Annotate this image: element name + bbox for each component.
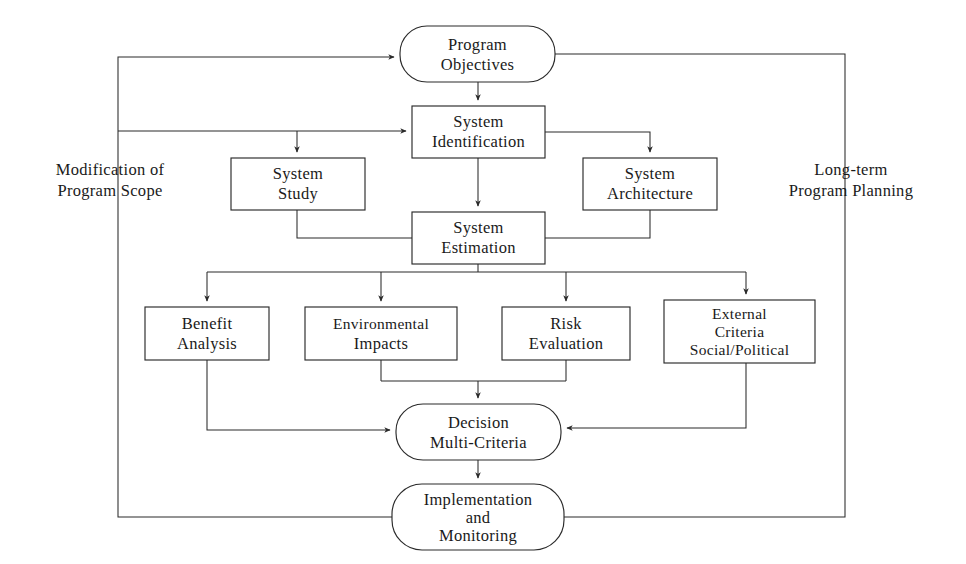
node-system-architecture[interactable]: System Architecture (583, 158, 717, 210)
node-benefit-analysis[interactable]: Benefit Analysis (145, 307, 269, 360)
node-system-identification-line2: Identification (432, 132, 525, 151)
node-system-estimation-line1: System (453, 218, 503, 237)
node-benefit-analysis-line1: Benefit (182, 314, 233, 333)
node-environmental-impacts-line2: Impacts (354, 334, 408, 353)
node-system-architecture-line2: Architecture (607, 184, 693, 203)
edge-long-term-feedback-loop (555, 54, 845, 517)
node-decision-line1: Decision (448, 413, 509, 432)
edge-external-to-decision (567, 363, 746, 428)
annotation-longterm-line1: Long-term (814, 160, 887, 179)
node-external-criteria-line2: Criteria (715, 323, 765, 340)
node-implementation-monitoring[interactable]: Implementation and Monitoring (392, 484, 564, 550)
node-system-architecture-line1: System (625, 164, 675, 183)
node-external-criteria-line1: External (712, 305, 767, 322)
node-external-criteria[interactable]: External Criteria Social/Political (664, 300, 815, 363)
node-system-study-line1: System (273, 164, 323, 183)
edge-study-to-estimation (297, 210, 412, 238)
node-risk-evaluation[interactable]: Risk Evaluation (502, 307, 630, 360)
node-system-identification-line1: System (453, 112, 503, 131)
node-decision-multi-criteria[interactable]: Decision Multi-Criteria (396, 404, 561, 460)
flowchart-diagram: Program Objectives System Identification… (0, 0, 966, 564)
node-benefit-analysis-line2: Analysis (177, 334, 237, 353)
node-implementation-line1: Implementation (424, 490, 533, 509)
node-decision-line2: Multi-Criteria (430, 433, 527, 452)
edge-architecture-to-estimation (545, 210, 650, 238)
node-system-estimation[interactable]: System Estimation (412, 212, 545, 264)
node-implementation-line3: Monitoring (439, 526, 517, 545)
node-risk-evaluation-line2: Evaluation (529, 334, 603, 353)
node-program-objectives-line1: Program (448, 35, 507, 54)
node-external-criteria-line3: Social/Political (690, 341, 790, 358)
node-program-objectives[interactable]: Program Objectives (400, 26, 555, 82)
flowchart-canvas: Program Objectives System Identification… (0, 0, 966, 564)
node-system-estimation-line2: Estimation (441, 238, 516, 257)
annotation-modification-line2: Program Scope (57, 181, 162, 200)
node-environmental-impacts-line1: Environmental (333, 315, 429, 332)
node-environmental-impacts[interactable]: Environmental Impacts (305, 307, 457, 360)
annotation-modification-line1: Modification of (56, 160, 165, 179)
edge-benefit-to-decision (207, 360, 390, 430)
annotation-long-term-program-planning: Long-term Program Planning (789, 160, 913, 200)
node-risk-evaluation-line1: Risk (550, 314, 582, 333)
node-system-study-line2: Study (278, 184, 318, 203)
edge-modification-feedback-loop (118, 57, 394, 517)
node-program-objectives-line2: Objectives (441, 55, 515, 74)
node-system-identification[interactable]: System Identification (412, 106, 545, 158)
annotation-longterm-line2: Program Planning (789, 181, 913, 200)
node-system-study[interactable]: System Study (231, 158, 365, 210)
annotation-modification-of-program-scope: Modification of Program Scope (56, 160, 165, 200)
node-implementation-line2: and (466, 508, 491, 527)
edge-identification-to-architecture (545, 132, 650, 152)
